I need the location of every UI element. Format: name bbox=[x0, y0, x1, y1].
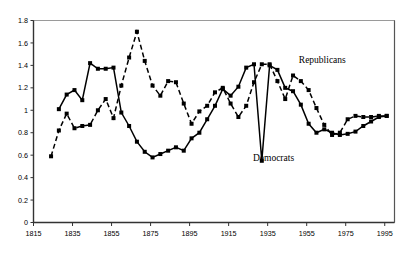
data-point-marker bbox=[80, 124, 84, 128]
data-point-marker bbox=[57, 107, 61, 111]
y-axis-tick-label: 0.6 bbox=[18, 151, 28, 160]
data-point-marker bbox=[119, 84, 123, 88]
data-point-marker bbox=[135, 140, 139, 144]
data-point-marker bbox=[322, 123, 326, 127]
data-point-marker bbox=[80, 98, 84, 102]
data-point-marker bbox=[244, 66, 248, 70]
data-point-marker bbox=[96, 108, 100, 112]
data-point-marker bbox=[299, 103, 303, 107]
data-point-marker bbox=[229, 102, 233, 106]
data-point-marker bbox=[291, 89, 295, 93]
y-axis-tick-label: 0 bbox=[24, 218, 28, 227]
data-point-marker bbox=[104, 67, 108, 71]
data-point-marker bbox=[96, 67, 100, 71]
data-point-marker bbox=[361, 124, 365, 128]
data-point-marker bbox=[330, 133, 334, 137]
data-point-marker bbox=[72, 88, 76, 92]
data-point-marker bbox=[158, 94, 162, 98]
data-point-marker bbox=[221, 86, 225, 90]
data-point-marker bbox=[322, 127, 326, 131]
series-line-democrats bbox=[51, 32, 387, 157]
data-point-marker bbox=[49, 154, 53, 158]
data-point-marker bbox=[314, 106, 318, 110]
data-point-marker bbox=[72, 126, 76, 130]
y-axis-tick-label: 0.2 bbox=[18, 196, 28, 205]
data-point-marker bbox=[275, 79, 279, 83]
y-axis-tick-label: 1 bbox=[24, 106, 28, 115]
x-axis-tick-label: 1915 bbox=[221, 229, 237, 238]
x-axis-tick-label: 1935 bbox=[260, 229, 276, 238]
data-point-marker bbox=[112, 66, 116, 70]
data-point-marker bbox=[307, 122, 311, 126]
data-point-marker bbox=[252, 62, 256, 66]
data-point-marker bbox=[174, 145, 178, 149]
series-line-republicans bbox=[59, 63, 387, 161]
x-axis-tick-label: 1955 bbox=[299, 229, 315, 238]
data-point-marker bbox=[119, 111, 123, 115]
x-axis-tick-label: 1855 bbox=[104, 229, 120, 238]
data-point-marker bbox=[190, 136, 194, 140]
chart-series bbox=[49, 30, 389, 163]
data-point-marker bbox=[213, 90, 217, 94]
data-point-marker bbox=[197, 109, 201, 113]
x-axis-tick-label: 1875 bbox=[143, 229, 159, 238]
x-axis-tick-label: 1835 bbox=[65, 229, 81, 238]
data-point-marker bbox=[127, 56, 131, 60]
data-point-marker bbox=[236, 115, 240, 119]
data-point-marker bbox=[65, 112, 69, 116]
data-point-marker bbox=[127, 124, 131, 128]
y-axis-tick-label: 0.4 bbox=[18, 173, 28, 182]
data-point-marker bbox=[151, 84, 155, 88]
x-axis-tick-label: 1995 bbox=[377, 229, 393, 238]
data-point-marker bbox=[205, 117, 209, 121]
data-point-marker bbox=[283, 86, 287, 90]
data-point-marker bbox=[88, 123, 92, 127]
data-point-marker bbox=[135, 30, 139, 34]
data-point-marker bbox=[338, 131, 342, 135]
data-point-marker bbox=[229, 94, 233, 98]
x-axis-tick-label: 1815 bbox=[26, 229, 42, 238]
data-point-marker bbox=[190, 122, 194, 126]
data-point-marker bbox=[236, 85, 240, 89]
data-point-marker bbox=[151, 155, 155, 159]
data-point-marker bbox=[369, 115, 373, 119]
data-point-marker bbox=[314, 131, 318, 135]
y-axis-tick-label: 1.8 bbox=[18, 16, 28, 25]
data-point-marker bbox=[182, 102, 186, 106]
chart-container: 00.20.40.60.811.21.41.61.818151835185518… bbox=[0, 0, 418, 268]
data-point-marker bbox=[104, 97, 108, 101]
y-axis-tick-label: 1.6 bbox=[18, 39, 28, 48]
data-point-marker bbox=[385, 114, 389, 118]
data-point-marker bbox=[361, 115, 365, 119]
data-point-marker bbox=[158, 152, 162, 156]
data-point-marker bbox=[57, 128, 61, 132]
data-point-marker bbox=[353, 130, 357, 134]
data-point-marker bbox=[166, 79, 170, 83]
y-axis-tick-label: 1.2 bbox=[18, 83, 28, 92]
data-point-marker bbox=[112, 116, 116, 120]
data-point-marker bbox=[377, 114, 381, 118]
data-point-marker bbox=[182, 149, 186, 153]
series-label-republicans: Republicans bbox=[299, 55, 346, 65]
series-label-democrats: Democrats bbox=[253, 153, 294, 163]
data-point-marker bbox=[65, 93, 69, 97]
data-point-marker bbox=[197, 131, 201, 135]
data-point-marker bbox=[260, 62, 264, 66]
data-point-marker bbox=[166, 149, 170, 153]
data-point-marker bbox=[299, 79, 303, 83]
data-point-marker bbox=[143, 59, 147, 63]
data-point-marker bbox=[353, 114, 357, 118]
data-point-marker bbox=[307, 88, 311, 92]
data-point-marker bbox=[174, 80, 178, 84]
data-point-marker bbox=[143, 150, 147, 154]
line-chart: 00.20.40.60.811.21.41.61.818151835185518… bbox=[0, 0, 418, 268]
data-point-marker bbox=[275, 68, 279, 72]
data-point-marker bbox=[283, 97, 287, 101]
data-point-marker bbox=[346, 117, 350, 121]
data-point-marker bbox=[369, 120, 373, 124]
data-point-marker bbox=[252, 80, 256, 84]
data-point-marker bbox=[268, 62, 272, 66]
data-point-marker bbox=[244, 104, 248, 108]
data-point-marker bbox=[213, 104, 217, 108]
data-point-marker bbox=[291, 73, 295, 77]
